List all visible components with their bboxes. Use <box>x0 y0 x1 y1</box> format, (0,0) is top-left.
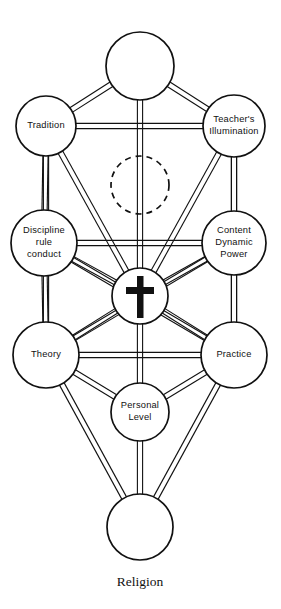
node-content-label: ContentDynamicPower <box>215 225 253 259</box>
node-theory[interactable]: Theory <box>13 322 79 388</box>
latin-cross-horizontal-bar <box>126 287 154 294</box>
edge-crown-to-teacher <box>167 82 209 112</box>
node-crown[interactable] <box>106 32 174 100</box>
node-tradition[interactable]: Tradition <box>16 96 76 156</box>
edge-personal-to-base <box>137 441 142 494</box>
node-practice-label: Practice <box>216 349 251 359</box>
node-discipline[interactable]: Disciplineruleconduct <box>11 210 77 276</box>
diagram-caption: Religion <box>117 574 164 589</box>
tree-of-life-diagram: TraditionTeacher'sIlluminationDiscipline… <box>0 0 281 609</box>
node-content[interactable]: ContentDynamicPower <box>202 211 266 275</box>
node-teacher[interactable]: Teacher'sIllumination <box>203 95 265 157</box>
edge-practice-to-personal <box>163 370 207 399</box>
edge-theory-to-personal <box>73 370 117 399</box>
node-base-circle[interactable] <box>107 494 173 560</box>
edge-theory-to-practice <box>79 352 201 357</box>
node-hidden-circle[interactable] <box>111 156 169 214</box>
edge-center-to-personal <box>137 324 142 383</box>
node-tradition-label: Tradition <box>27 120 65 130</box>
edge-content-to-center <box>163 256 207 284</box>
latin-cross-vertical-bar <box>137 276 144 318</box>
node-personal[interactable]: PersonalLevel <box>111 383 169 441</box>
node-crown-circle[interactable] <box>106 32 174 100</box>
edge-teacher-to-content <box>231 157 236 211</box>
node-theory-label: Theory <box>31 349 61 359</box>
node-base[interactable] <box>107 494 173 560</box>
node-practice[interactable]: Practice <box>201 322 267 388</box>
edge-tradition-to-teacher <box>76 123 203 128</box>
edge-crown-to-tradition <box>70 82 113 112</box>
node-hidden[interactable] <box>111 156 169 214</box>
edge-content-to-practice <box>231 275 236 322</box>
diagram-canvas: TraditionTeacher'sIlluminationDiscipline… <box>0 0 281 609</box>
edge-crown-to-center <box>137 100 142 268</box>
edge-discipline-to-content <box>77 240 202 245</box>
